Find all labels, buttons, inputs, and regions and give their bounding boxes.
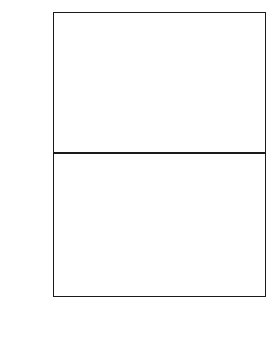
top-panel-plot-area [53, 12, 266, 153]
bottom-panel-svg [54, 154, 265, 296]
x-tick-labels [0, 0, 279, 12]
top-panel-svg [54, 13, 265, 152]
top-panel-y-tick-labels [0, 12, 50, 153]
xmcd-figure [0, 0, 279, 339]
bottom-panel-y-tick-labels [0, 153, 50, 297]
bottom-panel-plot-area [53, 153, 266, 297]
